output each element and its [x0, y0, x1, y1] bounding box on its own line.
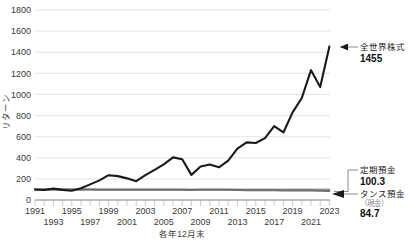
y-axis-ticks: 0 200 400 600 800 1000 1200 1400 1600 18…	[11, 5, 31, 205]
x-tick-label: 2023	[319, 206, 339, 216]
x-tick-label: 2001	[117, 217, 137, 227]
annotation-cash-hoard: タンス預金 （現金） 84.7	[332, 189, 405, 219]
annotation-value: 84.7	[360, 208, 380, 219]
y-tick-label: 600	[16, 132, 31, 142]
x-tick-label: 2007	[172, 206, 192, 216]
x-tick-label: 2003	[135, 206, 155, 216]
x-tick-label: 2021	[301, 217, 321, 227]
y-tick-label: 200	[16, 174, 31, 184]
x-tick-label: 2013	[227, 217, 247, 227]
x-tick-label: 1997	[80, 217, 100, 227]
y-tick-label: 1200	[11, 69, 31, 79]
x-tick-label: 1993	[43, 217, 63, 227]
annotation-world-equity: 全世界株式 1455	[340, 42, 405, 64]
x-tick-label: 1999	[99, 206, 119, 216]
annotation-label: 全世界株式	[360, 42, 405, 52]
gridlines	[35, 10, 330, 200]
x-axis-ticks-bottom: 1993 1997 2001 2005 2009 2013 2017 2021	[43, 217, 321, 227]
arrow-head-icon	[340, 44, 348, 51]
annotation-sublabel: （現金）	[360, 198, 388, 208]
y-tick-label: 1600	[11, 26, 31, 36]
x-tick-label: 2009	[191, 217, 211, 227]
x-tick-label: 2011	[209, 206, 228, 216]
y-tick-label: 1800	[11, 5, 31, 15]
x-tick-label: 2015	[246, 206, 266, 216]
line-chart: 0 200 400 600 800 1000 1200 1400 1600 18…	[0, 0, 410, 242]
y-tick-label: 1400	[11, 47, 31, 57]
chart-figure: 0 200 400 600 800 1000 1200 1400 1600 18…	[0, 0, 410, 242]
y-axis-title: リターン	[1, 94, 11, 130]
x-tick-label: 1991	[25, 206, 45, 216]
y-tick-label: 1000	[11, 90, 31, 100]
x-tick-label: 1995	[62, 206, 82, 216]
annotation-value: 100.3	[360, 176, 385, 187]
x-tick-label: 2005	[154, 217, 174, 227]
x-axis-ticks-top: 1991 1995 1999 2003 2007 2011 2015 2019 …	[25, 206, 339, 216]
y-tick-label: 0	[26, 195, 31, 205]
y-tick-label: 400	[16, 153, 31, 163]
annotation-value: 1455	[360, 53, 383, 64]
annotation-label: 定期預金	[360, 165, 396, 175]
y-tick-label: 800	[16, 111, 31, 121]
x-tick-label: 2019	[283, 206, 303, 216]
x-tick-label: 2017	[264, 217, 284, 227]
world-equity-line	[35, 46, 329, 190]
annotation-label: タンス預金	[360, 189, 405, 199]
annotation-time-deposit: 定期預金 100.3	[334, 165, 396, 192]
x-axis-title: 各年12月末	[159, 229, 204, 239]
